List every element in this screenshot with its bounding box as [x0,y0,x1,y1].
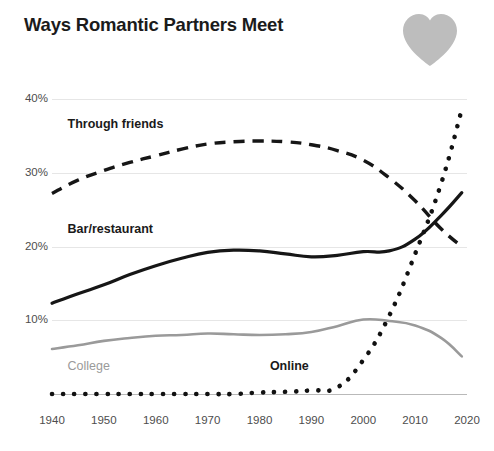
series-label-through-friends: Through friends [68,117,164,131]
x-axis-tick-2000: 2000 [341,414,385,426]
y-axis-tick-30: 30% [16,166,48,178]
series-label-bar-restaurant: Bar/restaurant [68,222,153,236]
x-axis-tick-2010: 2010 [393,414,437,426]
x-axis-tick-1970: 1970 [186,414,230,426]
series-lines [52,99,467,394]
y-axis-tick-20: 20% [16,240,48,252]
x-axis-tick-1980: 1980 [238,414,282,426]
x-axis-tick-1990: 1990 [289,414,333,426]
series-label-online: Online [270,359,309,373]
chart-container: Ways Romantic Partners Meet 40% 30% 20% … [0,0,494,451]
series-label-college: College [68,359,110,373]
y-axis-tick-40: 40% [16,92,48,104]
gridline-0-baseline [52,394,467,395]
heart-icon [400,12,460,68]
x-axis-tick-2020: 2020 [445,414,489,426]
x-axis-tick-1950: 1950 [82,414,126,426]
plot-area [52,99,467,394]
chart-title: Ways Romantic Partners Meet [24,14,283,36]
series-line-college [52,319,462,356]
x-axis-tick-1940: 1940 [30,414,74,426]
series-line-bar-restaurant [52,193,462,304]
y-axis-tick-10: 10% [16,313,48,325]
x-axis-tick-1960: 1960 [134,414,178,426]
